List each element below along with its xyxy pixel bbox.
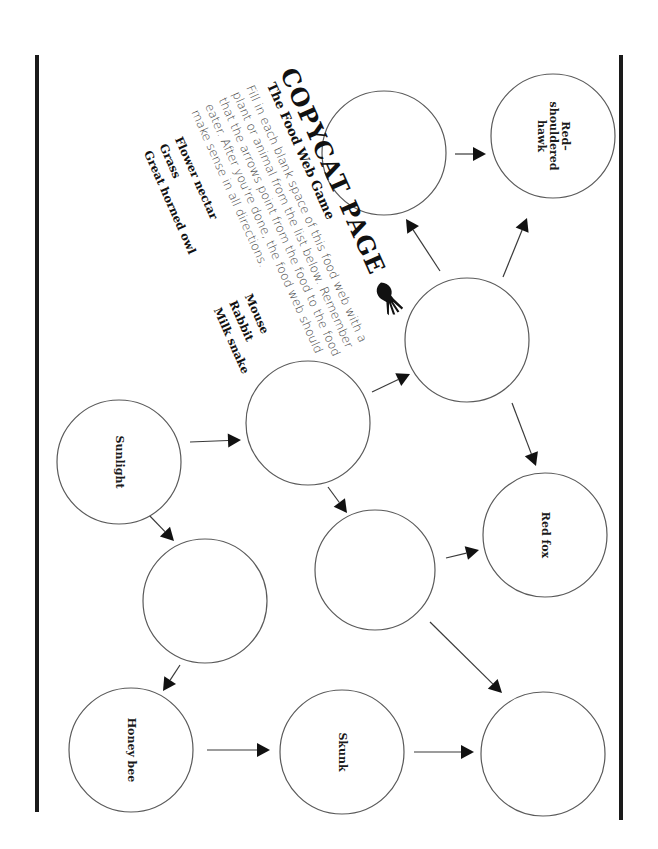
- arrow-shaft: [372, 380, 398, 392]
- arrow-shaft: [170, 665, 180, 680]
- blank-node-blank_bottom_right[interactable]: [481, 692, 605, 816]
- arrow-blank_top-to-hawk: [455, 147, 486, 161]
- arrow-shaft: [328, 487, 339, 503]
- arrow-shaft: [190, 441, 228, 442]
- arrowhead-icon: [257, 743, 270, 757]
- arrow-blank_lower_middle-to-red_fox: [446, 546, 479, 560]
- node-label-red_fox: Red fox: [539, 485, 551, 585]
- arrow-skunk-to-blank_bottom_right: [414, 745, 474, 759]
- arrow-blank_center_left-to-blank_lower_middle: [328, 487, 347, 513]
- arrowhead-icon: [334, 498, 347, 513]
- arrow-blank_center_right-to-hawk: [503, 218, 529, 277]
- arrow-blank_lower_left-to-honey_bee: [163, 665, 180, 691]
- arrowhead-icon: [473, 147, 486, 161]
- arrowhead-icon: [163, 676, 176, 691]
- arrow-sunlight-to-blank_lower_left: [147, 513, 174, 541]
- arrowhead-icon: [406, 219, 419, 234]
- arrow-blank_center_right-to-blank_top: [406, 219, 440, 271]
- arrow-shaft: [413, 230, 440, 271]
- blank-node-blank_center_right[interactable]: [405, 278, 529, 402]
- node-label-honey_bee: Honey bee: [125, 700, 137, 800]
- node-label-hawk: Red–shoulderedhawk: [535, 86, 571, 186]
- arrowhead-icon: [228, 434, 241, 448]
- arrowhead-icon: [461, 745, 474, 759]
- arrow-blank_center_right-to-red_fox: [512, 403, 538, 466]
- blank-node-blank_lower_left[interactable]: [143, 539, 267, 663]
- food-web-worksheet: Red–shoulderedhawkSunlightRed foxHoney b…: [0, 0, 658, 849]
- node-label-skunk: Skunk: [336, 702, 348, 802]
- arrow-blank_center_left-to-blank_center_right: [372, 373, 410, 392]
- node-label-sunlight: Sunlight: [113, 412, 125, 512]
- arrow-shaft: [512, 403, 531, 454]
- arrow-shaft: [430, 622, 493, 684]
- arrow-shaft: [503, 230, 522, 277]
- arrow-sunlight-to-blank_center_left: [190, 434, 241, 448]
- arrow-shaft: [446, 553, 466, 558]
- arrow-blank_lower_middle-to-blank_bottom_right: [430, 622, 502, 693]
- arrow-honey_bee-to-skunk: [207, 743, 270, 757]
- arrowhead-icon: [465, 546, 479, 560]
- blank-node-blank_lower_middle[interactable]: [315, 510, 435, 630]
